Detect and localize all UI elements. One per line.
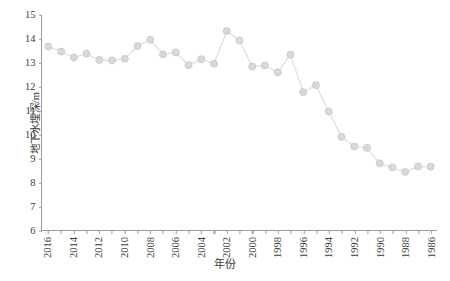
x-tick-2013	[86, 230, 87, 234]
x-tick-2006: 2006	[171, 230, 182, 258]
data-point[interactable]	[402, 168, 409, 175]
x-tick-2009	[137, 230, 138, 234]
data-point[interactable]	[147, 36, 154, 43]
y-tick-12: 12	[25, 82, 42, 93]
y-tick-10: 10	[25, 130, 42, 141]
x-tick-mark	[291, 230, 292, 234]
data-point[interactable]	[236, 37, 243, 44]
x-tick-mark	[418, 230, 419, 234]
x-tick-mark	[342, 230, 343, 234]
y-tick-label: 12	[25, 82, 39, 93]
series-layer	[42, 15, 437, 230]
data-point[interactable]	[160, 51, 167, 58]
x-tick-2014: 2014	[69, 230, 80, 258]
data-point[interactable]	[45, 43, 52, 50]
x-tick-2012: 2012	[94, 230, 105, 258]
x-tick-mark	[329, 230, 330, 234]
x-tick-mark	[316, 230, 317, 234]
x-tick-mark	[278, 230, 279, 234]
data-point[interactable]	[185, 62, 192, 69]
y-tick-14: 14	[25, 34, 42, 45]
y-tick-label: 10	[25, 130, 39, 141]
data-point[interactable]	[325, 108, 332, 115]
data-point[interactable]	[121, 55, 128, 62]
x-tick-1992: 1992	[350, 230, 361, 258]
x-tick-mark	[265, 230, 266, 234]
x-tick-1987	[418, 230, 419, 234]
y-tick-7: 7	[30, 202, 42, 213]
y-tick-9: 9	[30, 154, 42, 165]
x-tick-mark	[252, 230, 253, 234]
data-point[interactable]	[287, 51, 294, 58]
y-tick-mark	[39, 230, 43, 231]
data-point[interactable]	[70, 54, 77, 61]
data-point[interactable]	[58, 48, 65, 55]
x-tick-mark	[406, 230, 407, 234]
x-tick-1986: 1986	[426, 230, 437, 258]
x-tick-2011	[112, 230, 113, 234]
x-tick-mark	[124, 230, 125, 234]
data-point[interactable]	[312, 82, 319, 89]
data-point[interactable]	[83, 50, 90, 57]
x-tick-2010: 2010	[120, 230, 131, 258]
data-point[interactable]	[109, 57, 116, 64]
x-tick-2004: 2004	[196, 230, 207, 258]
x-tick-mark	[393, 230, 394, 234]
data-point[interactable]	[261, 62, 268, 69]
x-tick-mark	[431, 230, 432, 234]
data-point[interactable]	[198, 56, 205, 63]
series-line-0	[48, 31, 430, 172]
y-tick-label: 13	[25, 58, 39, 69]
y-tick-6: 6	[30, 226, 42, 237]
x-axis-title: 年份	[0, 255, 450, 271]
plot-area: 1514131211109876 20162014201220102008200…	[41, 15, 437, 231]
data-point[interactable]	[96, 56, 103, 63]
x-tick-mark	[150, 230, 151, 234]
y-tick-label: 8	[30, 178, 38, 189]
data-point[interactable]	[414, 163, 421, 170]
x-tick-1989	[393, 230, 394, 234]
data-point[interactable]	[134, 43, 141, 50]
x-tick-mark	[201, 230, 202, 234]
x-tick-2005	[188, 230, 189, 234]
x-tick-mark	[112, 230, 113, 234]
data-point[interactable]	[351, 143, 358, 150]
y-tick-label: 9	[30, 154, 38, 165]
data-point[interactable]	[249, 63, 256, 70]
x-tick-mark	[137, 230, 138, 234]
x-tick-2000: 2000	[248, 230, 259, 258]
x-tick-1998: 1998	[273, 230, 284, 258]
data-point[interactable]	[223, 28, 230, 35]
data-point[interactable]	[363, 144, 370, 151]
y-tick-label: 14	[25, 34, 39, 45]
data-point[interactable]	[300, 89, 307, 96]
data-point[interactable]	[427, 163, 434, 170]
x-tick-1994: 1994	[324, 230, 335, 258]
data-point[interactable]	[274, 69, 281, 76]
y-tick-label: 11	[25, 106, 38, 117]
groundwater-depth-line-chart: 地下水埋深/m 1514131211109876 201620142012201…	[0, 0, 450, 281]
x-tick-1996: 1996	[299, 230, 310, 258]
data-point[interactable]	[389, 164, 396, 171]
data-point[interactable]	[376, 160, 383, 167]
x-tick-mark	[227, 230, 228, 234]
y-tick-15: 15	[25, 10, 42, 21]
y-tick-label: 15	[25, 10, 39, 21]
data-point[interactable]	[172, 49, 179, 56]
x-tick-2007	[163, 230, 164, 234]
x-tick-mark	[367, 230, 368, 234]
y-axis-title: 地下水埋深/m	[27, 92, 42, 155]
x-tick-2001	[239, 230, 240, 234]
y-tick-label: 6	[30, 226, 38, 237]
x-tick-1988: 1988	[401, 230, 412, 258]
y-tick-11: 11	[25, 106, 42, 117]
x-tick-1990: 1990	[375, 230, 386, 258]
y-tick-label: 7	[30, 202, 38, 213]
data-point[interactable]	[338, 133, 345, 140]
x-tick-mark	[176, 230, 177, 234]
x-tick-2002: 2002	[222, 230, 233, 258]
x-tick-mark	[61, 230, 62, 234]
data-point[interactable]	[211, 60, 218, 67]
x-tick-2008: 2008	[145, 230, 156, 258]
x-tick-mark	[239, 230, 240, 234]
